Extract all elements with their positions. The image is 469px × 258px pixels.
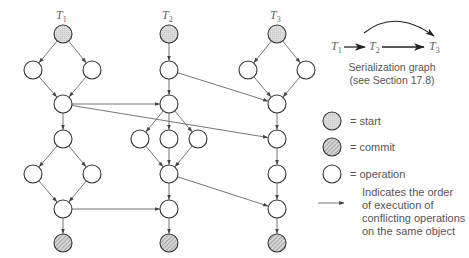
sequence-edge xyxy=(69,41,86,63)
legend-conflict-line-2: of execution of xyxy=(362,199,465,212)
sg-caption-line-2: (see Section 17.8) xyxy=(332,74,452,87)
operation-node xyxy=(24,61,42,79)
sg-node-t2: T2 xyxy=(369,39,380,55)
sequence-edge xyxy=(254,77,271,97)
sg-caption-line-1: Serialization graph xyxy=(332,61,452,74)
sg-node-t1: T1 xyxy=(331,39,342,55)
sequence-edge xyxy=(146,111,163,132)
sequence-edge xyxy=(39,77,57,97)
operation-node xyxy=(160,165,178,183)
operation-node xyxy=(160,200,178,218)
sequence-edge xyxy=(69,77,86,97)
sequence-edge xyxy=(69,181,86,202)
operation-node xyxy=(239,61,257,79)
operation-node xyxy=(189,130,207,148)
legend-conflict-line-4: on the same object xyxy=(362,225,465,238)
sequence-edge xyxy=(69,146,86,167)
operation-node xyxy=(24,165,42,183)
operation-node xyxy=(83,61,101,79)
serialization-graph-caption: Serialization graph (see Section 17.8) xyxy=(332,61,452,87)
sg-edge-t1-t3 xyxy=(364,21,434,36)
start-node xyxy=(54,25,72,43)
legend-commit-label: = commit xyxy=(350,141,395,154)
legend-conflict-line-1: Indicates the order xyxy=(362,186,465,199)
sequence-edge xyxy=(146,146,163,167)
start-node xyxy=(268,25,286,43)
legend-conflict-line-3: conflicting operations xyxy=(362,212,465,225)
serialization-graph xyxy=(344,21,434,47)
transaction-label-t3: T3 xyxy=(270,8,281,24)
commit-node xyxy=(160,234,178,252)
sequence-edge xyxy=(175,111,192,132)
start-node xyxy=(160,25,178,43)
sequence-edge xyxy=(283,77,300,97)
commit-node xyxy=(54,234,72,252)
operation-node xyxy=(54,200,72,218)
sequence-edge xyxy=(39,146,57,167)
sequence-edge xyxy=(283,41,300,63)
conflict-edge xyxy=(178,177,268,206)
legend-conflict-description: Indicates the order of execution of conf… xyxy=(362,186,465,238)
transaction-label-t2: T2 xyxy=(162,8,173,24)
sequence-edge xyxy=(254,41,271,63)
commit-node xyxy=(268,234,286,252)
operation-node xyxy=(160,61,178,79)
legend-commit-icon xyxy=(323,138,341,156)
legend-start-label: = start xyxy=(350,115,381,128)
operation-node xyxy=(297,61,315,79)
operation-node xyxy=(268,95,286,113)
legend-operation-icon xyxy=(323,165,341,183)
transaction-label-t1: T1 xyxy=(56,8,67,24)
operation-node xyxy=(268,200,286,218)
legend-start-icon xyxy=(323,112,341,130)
legend xyxy=(323,112,341,183)
operation-node xyxy=(54,130,72,148)
operation-node xyxy=(83,165,101,183)
operation-node xyxy=(160,95,178,113)
sequence-edge xyxy=(39,181,57,202)
sequence-edge xyxy=(175,146,192,167)
operation-node xyxy=(268,165,286,183)
sg-node-t3: T3 xyxy=(429,39,440,55)
nodes-layer xyxy=(24,25,315,252)
sequence-edge xyxy=(39,41,57,63)
operation-node xyxy=(131,130,149,148)
operation-node xyxy=(54,95,72,113)
legend-operation-label: = operation xyxy=(350,168,405,181)
operation-node xyxy=(268,130,286,148)
operation-node xyxy=(160,130,178,148)
